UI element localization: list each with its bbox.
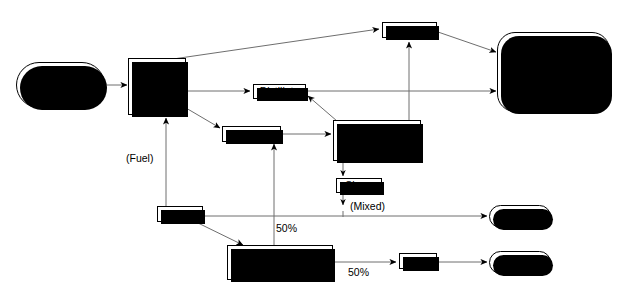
process-flow-diagram: Crude Oil Main Crude Unit Distillate Gas…	[0, 0, 629, 299]
node-crude-oil[interactable]: Crude Oil	[16, 62, 105, 108]
node-asphalt-label: Asphalt	[162, 208, 197, 220]
node-main-crude-unit[interactable]: Main Crude Unit	[128, 58, 186, 115]
node-pitch-label: Pitch	[406, 255, 429, 267]
edge-label-split-right: 50%	[348, 266, 369, 278]
edge-label-mixed: (Mixed)	[350, 200, 385, 212]
node-distillate[interactable]: Distillate	[253, 84, 306, 99]
node-slurry[interactable]: Slurry	[336, 178, 382, 193]
node-downstream-operations[interactable]: Downstream Operations	[497, 32, 610, 112]
node-market-bottom[interactable]: Market	[489, 251, 551, 274]
node-gasoils[interactable]: Gasoils	[222, 126, 281, 142]
node-gasoline[interactable]: Gasoline	[382, 22, 437, 38]
node-main-crude-unit-label: Main Crude Unit	[142, 67, 172, 106]
edge-label-split-up: 50%	[276, 222, 297, 234]
node-catalytic-cracker-label: Catalytic Cracker	[356, 128, 398, 154]
node-market-top-label: Market	[502, 210, 537, 223]
edge-cracker-to-distillate	[308, 96, 337, 121]
edge-asphalt-to-propane	[198, 223, 243, 245]
edge-main-to-gasoline	[173, 29, 379, 59]
node-market-bottom-label: Market	[502, 256, 537, 269]
node-gasoils-label: Gasoils	[234, 128, 269, 140]
node-catalytic-cracker[interactable]: Catalytic Cracker	[333, 120, 421, 161]
node-market-top[interactable]: Market	[489, 205, 551, 228]
edge-main-to-gasoils	[186, 108, 220, 128]
node-crude-oil-label: Crude Oil	[44, 71, 77, 98]
edge-gasoline-to-downstream	[438, 32, 496, 52]
node-slurry-label: Slurry	[345, 179, 372, 191]
node-propane-deasphalting-label: Propane Deasphalting	[248, 250, 312, 276]
node-pitch[interactable]: Pitch	[399, 253, 437, 269]
node-distillate-label: Distillate	[260, 85, 300, 97]
edge-label-fuel: (Fuel)	[126, 152, 153, 164]
node-propane-deasphalting[interactable]: Propane Deasphalting	[227, 245, 333, 280]
node-gasoline-label: Gasoline	[389, 24, 430, 36]
node-asphalt[interactable]: Asphalt	[157, 206, 203, 222]
node-downstream-operations-label: Downstream Operations	[519, 58, 588, 85]
